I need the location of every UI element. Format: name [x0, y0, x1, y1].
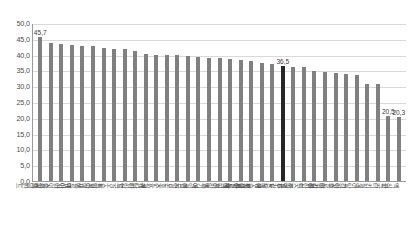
bar-slot — [193, 24, 204, 181]
bar-value-label: 20,3 — [392, 109, 405, 116]
bar-slot — [330, 24, 341, 181]
bar-slot — [204, 24, 215, 181]
x-axis-label-slot: 네덜란드 — [34, 184, 45, 240]
bar — [218, 58, 222, 181]
x-axis-label-slot: 한국 — [383, 184, 394, 240]
bar-slot — [256, 24, 267, 181]
bar-series: 45,736,520,520,3 — [33, 24, 406, 181]
x-axis-label-slot: 스위스 — [45, 184, 56, 240]
bar — [144, 54, 148, 181]
x-axis-label: 호주 — [155, 182, 166, 189]
bar-slot: 20,3 — [394, 24, 405, 181]
x-axis-label-slot: 스웨덴 — [87, 184, 98, 240]
bar — [270, 64, 274, 181]
bar-slot — [77, 24, 88, 181]
bar-slot — [172, 24, 183, 181]
bar — [196, 57, 200, 181]
x-axis-labels: 네덜란드스위스아이슬란드덴마크노르웨이스웨덴독일오스트리아영국핀란드캐나다뉴질랜… — [32, 184, 406, 240]
bar — [260, 63, 264, 182]
bar-slot: 45,7 — [35, 24, 46, 181]
bar — [123, 49, 127, 181]
bar-slot — [67, 24, 78, 181]
bar-slot — [362, 24, 373, 181]
bar — [207, 58, 211, 181]
bar-slot — [183, 24, 194, 181]
y-axis-tick-label: 20,0 — [2, 115, 30, 123]
x-axis-label-slot: 덴마크 — [66, 184, 77, 240]
bar-slot — [320, 24, 331, 181]
bar — [239, 60, 243, 181]
bar — [49, 43, 53, 181]
bar — [175, 55, 179, 181]
bar — [397, 117, 401, 181]
bar-slot — [46, 24, 57, 181]
y-axis-tick-label: 35,0 — [2, 67, 30, 75]
bar — [112, 49, 116, 181]
x-axis-label-slot: 캐나다 — [140, 184, 151, 240]
bar-slot — [56, 24, 67, 181]
bar — [133, 51, 137, 182]
x-axis-label-slot: 스페인 — [267, 184, 278, 240]
x-axis-label: 오스트리아 — [85, 182, 113, 189]
bar — [228, 59, 232, 181]
x-axis-label-slot: 호주 — [161, 184, 172, 240]
bar — [344, 74, 348, 181]
bar — [80, 46, 84, 181]
bar-slot — [162, 24, 173, 181]
y-axis-tick-label: 15,0 — [2, 131, 30, 139]
y-axis-tick-label: 40,0 — [2, 52, 30, 60]
bar-slot — [151, 24, 162, 181]
bar — [38, 37, 42, 181]
bar-slot — [299, 24, 310, 181]
bar-slot — [225, 24, 236, 181]
bar-slot — [373, 24, 384, 181]
bar — [102, 48, 106, 181]
bar-slot — [140, 24, 151, 181]
x-axis-label-slot: 슬로바키아 — [330, 184, 341, 240]
bar — [355, 75, 359, 181]
x-axis-label-slot: OECD 평균 — [277, 184, 288, 240]
y-axis-tick-label: 25,0 — [2, 99, 30, 107]
x-axis-label-slot: 일본 — [172, 184, 183, 240]
x-axis-label-slot: 핀란드 — [129, 184, 140, 240]
y-axis-tick-label: 50,0 — [2, 20, 30, 28]
x-axis-label-slot: 아일랜드 — [193, 184, 204, 240]
bar — [376, 84, 380, 181]
bar-slot — [341, 24, 352, 181]
bar-slot: 20,5 — [383, 24, 394, 181]
bar-slot — [267, 24, 278, 181]
bar — [334, 73, 338, 181]
x-axis-label-slot: 독일 — [97, 184, 108, 240]
bar — [59, 44, 63, 181]
x-axis-label-slot: 노르웨이 — [76, 184, 87, 240]
x-axis-label-slot: 이스라엘 — [298, 184, 309, 240]
x-axis-label-slot: 그리스 — [341, 184, 352, 240]
x-axis-label-slot: 오스트리아 — [108, 184, 119, 240]
bar — [91, 46, 95, 181]
bar-slot — [351, 24, 362, 181]
bar — [249, 61, 253, 181]
bar-slot — [288, 24, 299, 181]
x-axis-label-slot: 터키 — [373, 184, 384, 240]
bar — [281, 66, 285, 181]
y-axis-tick-label: 10,0 — [2, 146, 30, 154]
bar — [291, 67, 295, 181]
bar — [386, 116, 390, 181]
x-axis-label-slot: 에스토니아 — [256, 184, 267, 240]
y-axis-tick-label: 45,0 — [2, 36, 30, 44]
bar-slot — [214, 24, 225, 181]
x-axis-label-slot: 칠레 — [362, 184, 373, 240]
bar-slot — [109, 24, 120, 181]
x-axis-label-slot: 헝가리 — [320, 184, 331, 240]
bar-slot — [98, 24, 109, 181]
bar — [365, 84, 369, 181]
bar — [70, 45, 74, 181]
bar-slot — [130, 24, 141, 181]
y-axis-tick-label: 5,0 — [2, 162, 30, 170]
bar-slot — [119, 24, 130, 181]
x-axis-label-slot: 벨기에 — [203, 184, 214, 240]
x-axis-label: 멕시코 — [382, 182, 399, 189]
x-axis-label-slot: 멕시코 — [394, 184, 405, 240]
bar — [323, 72, 327, 181]
x-axis-label: 이탈리아 — [334, 182, 356, 189]
